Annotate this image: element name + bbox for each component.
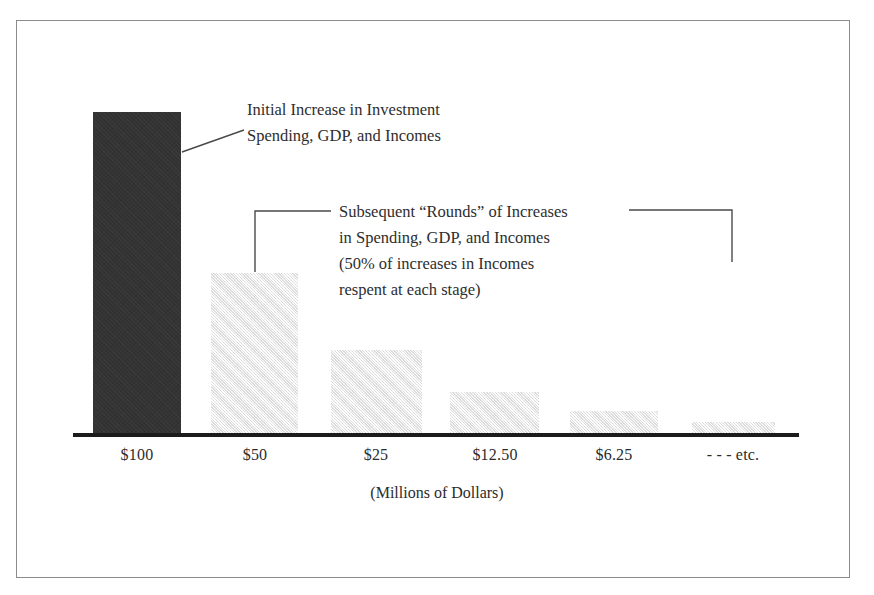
bar-100 [93,112,181,434]
plot-area: Initial Increase in Investment Spending,… [0,0,874,595]
x-axis-line [73,433,799,437]
bar-6-25 [570,411,658,434]
annotation-rounds-line-1: Subsequent “Rounds” of Increases [339,199,568,225]
annotation-subsequent-rounds: Subsequent “Rounds” of Increases in Spen… [339,199,568,303]
bar-25 [331,350,422,434]
x-tick-label-12-50: $12.50 [435,446,555,464]
annotation-rounds-line-2: in Spending, GDP, and Incomes [339,225,568,251]
leader-line-initial [182,130,244,152]
x-tick-label-100: $100 [77,446,197,464]
annotation-initial-line-1: Initial Increase in Investment [247,97,441,123]
annotation-initial-increase: Initial Increase in Investment Spending,… [247,97,441,149]
annotation-rounds-line-4: respent at each stage) [339,277,568,303]
x-tick-label-6-25: $6.25 [554,446,674,464]
bar-12-50 [450,392,539,434]
bar-50 [211,273,298,434]
x-axis-title: (Millions of Dollars) [0,484,874,502]
x-tick-label-50: $50 [195,446,315,464]
x-tick-label-25: $25 [316,446,436,464]
annotation-initial-line-2: Spending, GDP, and Incomes [247,123,441,149]
x-tick-label-etc: - - - etc. [673,446,793,464]
bracket-left-rounds [255,211,331,272]
annotation-rounds-line-3: (50% of increases in Incomes [339,251,568,277]
bracket-right-rounds [629,210,732,262]
